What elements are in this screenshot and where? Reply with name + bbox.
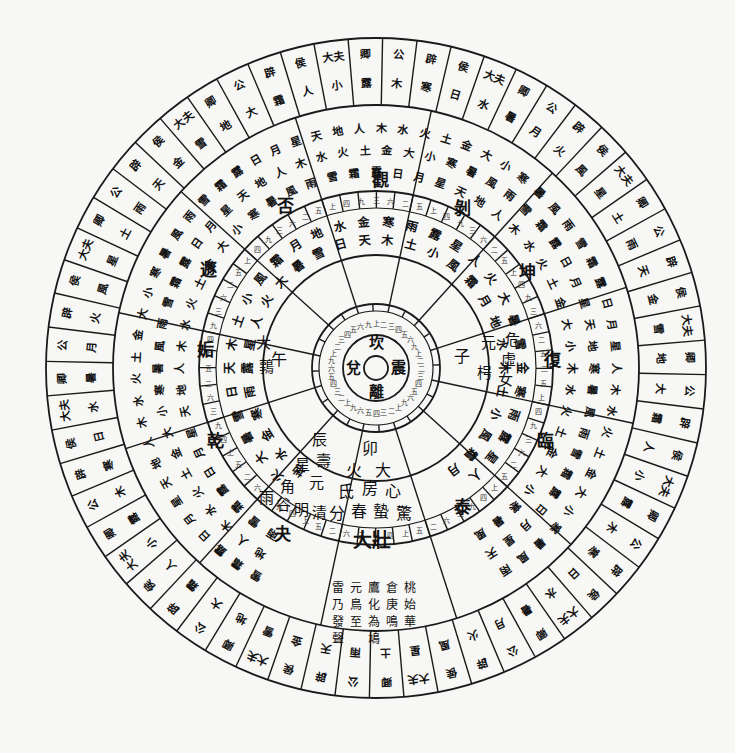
outer-cell-glyph: 辟: [127, 157, 145, 174]
numeral-mark: 五: [501, 473, 508, 481]
outer-cell-glyph: 侯: [66, 272, 83, 287]
outer-cell-glyph: 地: [654, 353, 668, 364]
ring-glyph: 天: [482, 544, 499, 561]
numeral-mark: 六: [518, 448, 525, 457]
outer-cell-glyph: 暑: [85, 371, 98, 382]
hexagram-fu: 復: [543, 350, 562, 370]
outer-cell-glyph: 辟: [607, 562, 625, 579]
numeral-mark: 六: [387, 197, 394, 206]
outer-cell-glyph: 日: [92, 429, 107, 443]
hub-glyph-north: 坎: [369, 334, 384, 352]
ring-glyph: 火: [337, 146, 351, 161]
fine-tick: [322, 200, 327, 216]
numeral-tick: [414, 321, 419, 326]
hexagram-lin: 臨: [537, 431, 554, 451]
numeral-mark: 九: [358, 197, 365, 206]
ring-glyph: 暑: [490, 512, 507, 529]
numeral-mark: 二: [491, 246, 498, 254]
outer-cell-glyph: 卿: [644, 508, 661, 524]
fine-tick: [409, 525, 412, 542]
numeral-mark: 九: [215, 421, 222, 430]
ring-glyph: 露: [426, 225, 444, 243]
ring-glyph: 雪: [517, 202, 534, 219]
ring-glyph: 月: [267, 142, 283, 159]
numeral-mark: 六: [207, 393, 214, 402]
ring-glyph: 日: [533, 501, 550, 518]
ring-glyph: 露: [214, 481, 232, 498]
outer-cell-glyph: 天: [636, 264, 652, 280]
ring-glyph: 人: [173, 362, 187, 374]
numeral-mark: 四: [535, 408, 542, 416]
numeral-tick: [329, 325, 334, 330]
ring-glyph: 木: [216, 516, 235, 535]
phenology-text: 雷乃發聲元鳥至鷹化為鳩倉庚鳴桃始華: [332, 580, 416, 646]
ring-glyph: 水: [332, 217, 348, 235]
ring-glyph: 風: [444, 257, 462, 275]
outer-cell-glyph: 大: [208, 595, 225, 613]
phenology-glyph: 華: [404, 615, 416, 629]
mansion-yuan: 元: [309, 474, 324, 492]
outer-cell-glyph: 侯: [443, 665, 458, 681]
outer-cell-glyph: 雨: [624, 236, 640, 252]
ring-glyph: 大: [251, 449, 270, 468]
term-fen: 分: [329, 504, 345, 523]
fine-tick: [203, 331, 220, 335]
ring-glyph: 寒: [512, 384, 529, 399]
outer-cell-glyph: 卿: [101, 525, 118, 541]
numeral-mark: 上: [510, 268, 517, 277]
hub: 坎 震 離 兌: [346, 334, 407, 401]
branch-mao: 卯: [362, 439, 378, 458]
outer-cell-glyph: 小: [142, 534, 160, 552]
ring-glyph: 雪: [196, 192, 213, 209]
branch-chen: 辰: [312, 431, 327, 449]
numeral-mark: 二: [538, 336, 545, 344]
outer-cell-divider: [637, 401, 703, 409]
outer-cell-glyph: 風: [95, 282, 111, 296]
numeral-mark: 三: [276, 227, 283, 235]
outer-cell-glyph: 大夫: [244, 648, 271, 670]
outer-cell-glyph: 火: [551, 142, 569, 160]
ring-glyph: 雪: [326, 170, 340, 185]
ring-glyph: 土: [544, 275, 561, 291]
ring-glyph: 星: [184, 425, 200, 440]
outer-cell-glyph: 雪: [193, 135, 210, 152]
mansion-xiao: 枵: [477, 364, 492, 382]
ring-glyph: 寒: [514, 169, 533, 188]
outer-cell-glyph: 卿: [634, 194, 651, 210]
outer-cell-glyph: 小: [330, 78, 344, 94]
outer-cell-glyph: 水: [541, 584, 559, 602]
numeral-mark: 二: [329, 527, 336, 535]
numeral-mark: 上: [402, 529, 409, 538]
outer-cell-glyph: 公: [627, 536, 644, 552]
ring-glyph: 月: [475, 291, 494, 309]
ring-0: [364, 356, 388, 380]
hub-glyph-east: 震: [391, 359, 407, 377]
numeral-mark: 六: [443, 516, 450, 525]
ring-glyph: 寒: [587, 362, 601, 375]
hexagram-tai: 泰: [454, 497, 472, 517]
ring-glyph: 霜: [212, 177, 230, 195]
ring-glyph: 寒: [443, 155, 460, 173]
outer-cell-glyph: 星: [104, 253, 120, 268]
numeral-mark: 二: [205, 380, 212, 388]
outer-cell-glyph: 土: [609, 209, 627, 226]
mansion-xin: 心: [385, 482, 401, 501]
phenology-glyph: 為: [368, 615, 380, 629]
numeral-mark: 四: [254, 246, 261, 254]
numeral-mark: 九: [530, 421, 537, 430]
ring-glyph: 人: [465, 466, 485, 486]
ring-glyph: 月: [567, 274, 584, 290]
numeral-mark: 四: [443, 213, 450, 221]
outer-cell-glyph: 星: [592, 185, 609, 202]
numeral-mark: 六: [357, 322, 364, 331]
ring-glyph: 木: [565, 362, 579, 375]
outer-cell-glyph: 侯: [280, 661, 295, 678]
outer-cell-divider: [47, 390, 114, 396]
branch-zi: 子: [454, 347, 470, 366]
outer-cell-glyph: 公: [232, 78, 248, 94]
outer-cell-glyph: 月: [527, 124, 544, 141]
hexagram-guai: 夬: [274, 524, 292, 544]
ring-glyph: 金: [257, 426, 277, 446]
outer-cell-glyph: 雪: [651, 323, 665, 336]
ring-glyph: 金: [130, 328, 146, 343]
